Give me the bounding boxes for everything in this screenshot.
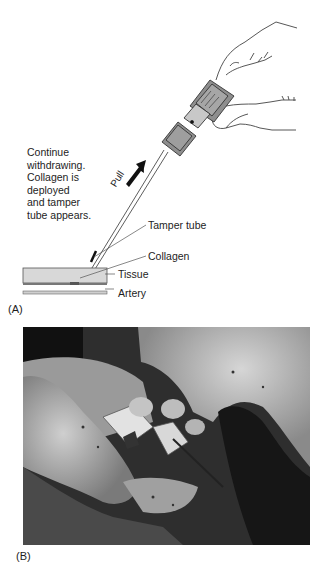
artery-layer	[23, 291, 107, 294]
tissue-bottom-edge	[23, 283, 107, 285]
tissue-layer	[23, 268, 107, 283]
panel-b-photo	[23, 327, 310, 545]
instruction-line: and tamper	[27, 196, 91, 209]
device-sheath	[84, 150, 168, 282]
callout-tissue: Tissue	[118, 268, 149, 280]
pull-arrow-icon	[126, 160, 146, 187]
collagen-plug	[70, 282, 79, 285]
instruction-line: Collagen is	[27, 171, 91, 184]
panel-b-label: (B)	[16, 550, 31, 562]
hand-outline	[212, 22, 297, 130]
callout-collagen: Collagen	[148, 250, 189, 262]
instruction-line: deployed	[27, 184, 91, 197]
instruction-line: withdrawing.	[27, 159, 91, 172]
gloved-hands-photo	[23, 327, 310, 545]
instruction-text: Continue withdrawing. Collagen is deploy…	[27, 146, 91, 222]
instruction-line: Continue	[27, 146, 91, 159]
instruction-line: tube appears.	[27, 209, 91, 222]
callout-artery: Artery	[118, 287, 146, 299]
device-handle	[162, 80, 234, 156]
callout-tamper-tube: Tamper tube	[148, 219, 206, 231]
panel-a-label: (A)	[8, 303, 23, 315]
